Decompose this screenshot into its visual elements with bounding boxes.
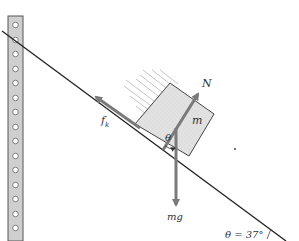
mass-label: m: [192, 115, 202, 126]
angle-symbol-label: θ: [165, 133, 171, 143]
incline-diagram: [0, 0, 299, 241]
angle-tick: [267, 229, 271, 239]
support-post: [8, 16, 23, 241]
friction-label: fk: [101, 115, 109, 129]
friction-subscript: k: [105, 121, 109, 129]
normal-force-label: N: [202, 78, 212, 89]
post-holes: [13, 22, 19, 231]
angle-value-label: θ = 37°: [225, 230, 263, 240]
incline-surface: [2, 31, 286, 241]
weight-label: mg: [167, 212, 183, 222]
stray-dot: [234, 148, 236, 150]
